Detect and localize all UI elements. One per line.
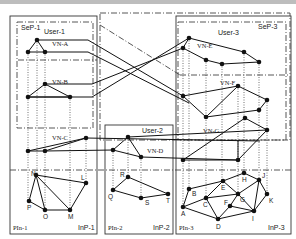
sep-2-box — [100, 13, 290, 140]
svg-text:L: L — [81, 174, 85, 181]
vn-a-label: VN-A — [52, 40, 69, 47]
svg-text:D: D — [216, 223, 221, 230]
user-3-label: User-3 — [218, 29, 239, 36]
svg-text:G: G — [240, 196, 245, 203]
svg-text:Q: Q — [108, 193, 113, 201]
inp-1-box — [10, 16, 97, 234]
pin-2-label: PIn-2 — [108, 224, 122, 231]
user-1-label: User-1 — [44, 28, 65, 35]
svg-text:C: C — [203, 201, 208, 208]
svg-text:N: N — [31, 170, 36, 177]
svg-text:S: S — [145, 199, 150, 206]
svg-text:E: E — [221, 184, 226, 191]
svg-text:I: I — [252, 215, 254, 222]
svg-text:T: T — [166, 197, 170, 204]
inp-1-label: InP-1 — [78, 224, 95, 231]
vn-g-label: VN-G — [203, 127, 220, 134]
virtual-links — [28, 38, 267, 160]
network-diagram: SeP-1 SeP-3 User-1 User-2 User-3 VN-A VN… — [0, 0, 296, 239]
inp-3-label: InP-3 — [268, 224, 285, 231]
vn-b-label: VN-B — [52, 78, 69, 85]
svg-text:R: R — [120, 171, 125, 178]
pin-1-label: PIn-1 — [13, 224, 27, 231]
inp-2-box — [105, 125, 173, 234]
physical-links — [29, 173, 267, 219]
vn-c-label: VN-C — [52, 134, 68, 141]
svg-text:O: O — [43, 213, 48, 220]
pin-3-label: PIn-3 — [179, 224, 193, 231]
user-2-label: User-2 — [142, 127, 163, 134]
vn-e-label: VN-E — [197, 42, 213, 49]
physical-nodes — [27, 171, 270, 222]
sep-1-label: SeP-1 — [21, 24, 41, 31]
svg-text:M: M — [68, 213, 73, 220]
vn-f-label: VN-F — [220, 79, 236, 86]
svg-text:K: K — [269, 197, 274, 204]
svg-text:B: B — [192, 190, 196, 197]
sep-3-label: SeP-3 — [258, 23, 278, 30]
svg-text:J: J — [262, 172, 265, 179]
sep-1-box — [17, 22, 93, 128]
vn-d-label: VN-D — [147, 147, 164, 154]
inp-2-label: InP-2 — [153, 224, 170, 231]
svg-text:F: F — [224, 199, 228, 206]
svg-text:H: H — [242, 176, 247, 183]
infrastructure-provider-boxes — [10, 16, 291, 234]
svg-text:P: P — [27, 204, 31, 211]
svg-text:A: A — [181, 210, 186, 217]
